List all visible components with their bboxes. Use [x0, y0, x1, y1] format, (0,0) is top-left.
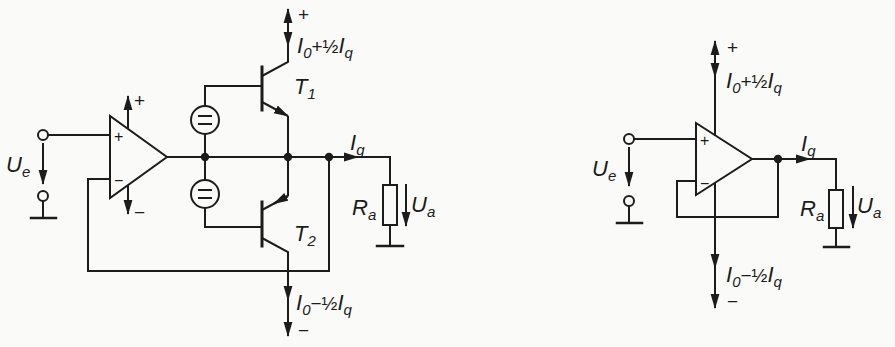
resistor-icon	[829, 190, 843, 228]
schematic-figure: Ue + − + −	[0, 0, 895, 347]
input-voltage-label: Ue	[592, 156, 616, 184]
output-voltage-label: Ua	[411, 192, 435, 220]
resistor-icon	[383, 185, 397, 225]
t1-emitter	[262, 102, 288, 116]
opamp: + −	[696, 123, 752, 195]
opamp-noninverting-input-label: +	[114, 128, 123, 145]
output-current-label: Iq	[350, 130, 365, 158]
output-wire	[752, 159, 836, 190]
circuit-diagram: Ue + − + −	[0, 0, 895, 347]
load-resistor-label: Ra	[352, 195, 376, 223]
terminal-circle	[38, 191, 48, 201]
opamp-vminus-label: −	[134, 202, 145, 223]
input-terminal	[617, 134, 696, 223]
t2-emitter-arrow	[274, 196, 288, 204]
t1-collector-supply-arrow	[262, 9, 288, 76]
supply-plus-label: +	[727, 37, 738, 58]
supply-plus-label: +	[298, 4, 309, 25]
input-voltage-label: Ue	[6, 152, 30, 180]
voltage-source-icon	[191, 106, 219, 134]
right-circuit: Ue + − + I0+½Iq I0−½Iq − Iq	[592, 37, 881, 312]
terminal-circle	[38, 130, 48, 140]
opamp-inverting-input-label: −	[114, 172, 123, 189]
t2-label: T2	[294, 221, 316, 249]
supply-minus-label: −	[727, 291, 738, 312]
load-resistor-label: Ra	[800, 196, 824, 224]
opamp: + − + −	[110, 90, 167, 223]
source-to-base-wire	[205, 86, 262, 106]
t2-collector-supply-arrow	[262, 238, 288, 336]
negative-supply: I0−½Iq −	[715, 183, 783, 312]
top-current-label: I0+½Iq	[726, 68, 783, 96]
output-branch: Iq Ra Ua	[781, 131, 881, 247]
opamp-noninverting-input-label: +	[700, 132, 709, 149]
bottom-current-label: I0−½Iq	[726, 262, 783, 290]
opamp-vplus-label: +	[134, 90, 145, 111]
bias-source-top	[191, 86, 262, 157]
voltage-source-icon	[191, 180, 219, 208]
t1-label: T1	[294, 74, 316, 102]
node-dot	[774, 155, 782, 163]
opamp-inverting-input-label: −	[700, 175, 709, 192]
source-to-base-wire	[205, 208, 262, 227]
input-terminal	[31, 130, 110, 218]
terminal-circle	[624, 134, 634, 144]
transistor-t2	[262, 157, 288, 336]
bias-source-bottom	[191, 157, 262, 227]
output-current-label: Iq	[801, 131, 816, 159]
top-current-label: I0+½Iq	[297, 33, 354, 61]
positive-supply: + I0+½Iq	[288, 4, 354, 61]
supply-minus-label: −	[298, 320, 309, 341]
transistor-t1	[262, 9, 288, 157]
left-circuit: Ue + − + −	[6, 4, 435, 341]
output-voltage-label: Ua	[857, 193, 881, 221]
output-branch: Iq Ra Ua	[332, 130, 435, 246]
negative-supply: I0−½Iq −	[288, 272, 353, 341]
positive-supply: + I0+½Iq	[715, 37, 783, 136]
bottom-current-label: I0−½Iq	[296, 290, 353, 318]
terminal-circle	[624, 196, 634, 206]
